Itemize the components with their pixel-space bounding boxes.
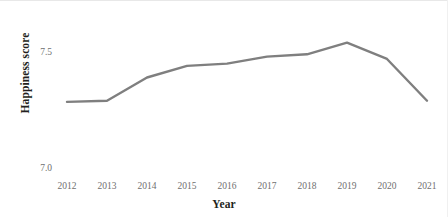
y-axis-title: Happiness score <box>14 8 36 138</box>
x-tick-label-2021: 2021 <box>406 181 448 192</box>
x-tick-label-2017: 2017 <box>246 181 288 192</box>
data-series-svg <box>55 4 443 180</box>
plot-area <box>55 4 443 180</box>
x-tick-label-2018: 2018 <box>286 181 328 192</box>
x-tick-label-2012: 2012 <box>46 181 88 192</box>
x-tick-label-2016: 2016 <box>206 181 248 192</box>
x-axis-title: Year <box>0 197 448 211</box>
x-tick-label-2014: 2014 <box>126 181 168 192</box>
line-chart-happiness-score: Happiness score 7.5 7.0 2012201320142015… <box>0 0 448 217</box>
x-tick-label-2019: 2019 <box>326 181 368 192</box>
y-tick-label-7-0: 7.0 <box>26 163 52 173</box>
x-tick-label-2015: 2015 <box>166 181 208 192</box>
x-tick-label-2020: 2020 <box>366 181 408 192</box>
x-tick-label-2013: 2013 <box>86 181 128 192</box>
figure-top-border <box>0 0 448 1</box>
y-tick-label-7-5: 7.5 <box>26 47 52 57</box>
series-line-happiness-score <box>67 43 427 102</box>
